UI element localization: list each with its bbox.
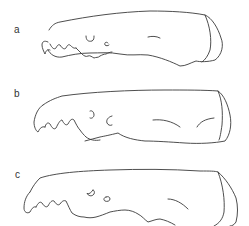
skull-drawings bbox=[0, 0, 249, 226]
skull-b-drawing bbox=[34, 90, 231, 143]
skull-a-drawing bbox=[42, 11, 222, 66]
skull-c-drawing bbox=[24, 169, 238, 226]
